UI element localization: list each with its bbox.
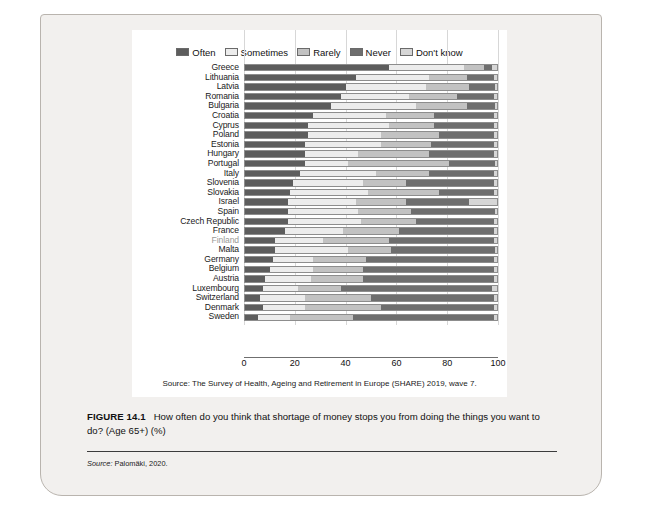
chart-panel: OftenSometimesRarelyNeverDon't know Gree… (132, 30, 507, 397)
stacked-bar (244, 198, 498, 205)
bar-segment-don-t-know (494, 75, 497, 80)
bar-segment-don-t-know (495, 209, 498, 214)
bar-segment-never (341, 286, 492, 291)
bar-segment-don-t-know (494, 219, 497, 224)
bar-segment-never (371, 295, 494, 300)
stacked-bar (244, 237, 498, 244)
bar-segment-rarely (298, 286, 341, 291)
bar-segment-often (245, 161, 305, 166)
bar-segment-sometimes (275, 247, 348, 252)
bar-segment-rarely (361, 219, 416, 224)
stacked-bar (244, 189, 498, 196)
bar-segment-never (449, 161, 494, 166)
bar-segment-don-t-know (494, 113, 497, 118)
stacked-bar (244, 275, 498, 282)
bar-segment-rarely (409, 94, 457, 99)
bar-row: Malta (132, 245, 507, 255)
bar-row: Lithuania (132, 73, 507, 83)
x-tick-label-80: 80 (442, 358, 452, 368)
bar-segment-sometimes (258, 315, 291, 320)
bar-segment-don-t-know (494, 267, 497, 272)
bar-segment-often (245, 286, 263, 291)
legend-label: Never (366, 47, 391, 58)
bar-segment-often (245, 65, 389, 70)
bar-segment-often (245, 151, 305, 156)
bar-segment-rarely (313, 267, 363, 272)
bar-segment-rarely (381, 142, 431, 147)
bar-segment-sometimes (389, 65, 465, 70)
bar-segment-often (245, 315, 258, 320)
bar-segment-often (245, 276, 265, 281)
bar-segment-never (467, 75, 495, 80)
bar-segment-often (245, 238, 275, 243)
bar-segment-sometimes (308, 132, 381, 137)
bar-segment-rarely (368, 190, 439, 195)
stacked-bar (244, 294, 498, 301)
figure-caption: FIGURE 14.1 How often do you think that … (87, 410, 557, 437)
bar-segment-rarely (323, 238, 389, 243)
bar-segment-rarely (381, 132, 439, 137)
bar-row: Cyprus (132, 121, 507, 131)
figure-source-text: Palomäki, 2020. (115, 459, 168, 468)
bar-segment-rarely (358, 209, 411, 214)
bar-segment-never (484, 65, 492, 70)
bar-segment-rarely (305, 295, 371, 300)
bar-segment-often (245, 305, 263, 310)
bar-segment-rarely (348, 161, 449, 166)
country-label-sweden: Sweden (132, 312, 244, 322)
legend-swatch-icon (297, 48, 310, 56)
stacked-bar (244, 208, 498, 215)
bar-segment-sometimes (275, 238, 323, 243)
bar-segment-never (439, 190, 494, 195)
bar-segment-never (363, 267, 494, 272)
bar-segment-often (245, 228, 285, 233)
bar-row: Austria (132, 274, 507, 284)
bar-segment-often (245, 295, 260, 300)
legend-label: Sometimes (241, 47, 289, 58)
bar-segment-often (245, 267, 270, 272)
bar-segment-never (399, 228, 495, 233)
bar-segment-often (245, 132, 308, 137)
bar-segment-sometimes (356, 75, 429, 80)
bar-segment-never (391, 247, 494, 252)
stacked-bar (244, 170, 498, 177)
x-tick-label-100: 100 (490, 358, 505, 368)
bar-segment-don-t-know (494, 171, 497, 176)
stacked-bar (244, 122, 498, 129)
bar-segment-never (406, 199, 469, 204)
bar-segment-don-t-know (494, 238, 497, 243)
bar-segment-don-t-know (494, 315, 497, 320)
x-axis-ticks: 020406080100 (244, 358, 498, 372)
legend-swatch-icon (225, 48, 238, 56)
bar-segment-often (245, 219, 288, 224)
bar-row: Sweden (132, 312, 507, 322)
stacked-bar (244, 112, 498, 119)
bar-segment-don-t-know (494, 305, 497, 310)
bar-segment-often (245, 75, 356, 80)
bar-segment-don-t-know (494, 94, 497, 99)
bar-segment-rarely (313, 257, 366, 262)
bar-segment-never (429, 151, 495, 156)
bar-segment-often (245, 113, 313, 118)
figure-card: OftenSometimesRarelyNeverDon't know Gree… (40, 14, 602, 496)
bar-row: Hungary (132, 149, 507, 159)
bar-row: Denmark (132, 303, 507, 313)
bar-row: Poland (132, 130, 507, 140)
bar-segment-rarely (348, 247, 391, 252)
bar-segment-sometimes (288, 219, 361, 224)
bar-segment-rarely (358, 151, 429, 156)
stacked-bar (244, 179, 498, 186)
bar-row: Romania (132, 92, 507, 102)
bar-segment-rarely (356, 199, 406, 204)
bar-segment-never (457, 94, 495, 99)
bar-segment-never (429, 171, 495, 176)
chart-source-note: Source: The Survey of Health, Ageing and… (132, 379, 507, 388)
stacked-bar (244, 256, 498, 263)
bar-row: Israel (132, 197, 507, 207)
bar-segment-sometimes (293, 180, 364, 185)
bar-segment-often (245, 257, 273, 262)
bar-segment-sometimes (260, 295, 305, 300)
bar-segment-never (389, 238, 495, 243)
bar-segment-often (245, 142, 305, 147)
bar-row: Belgium (132, 264, 507, 274)
